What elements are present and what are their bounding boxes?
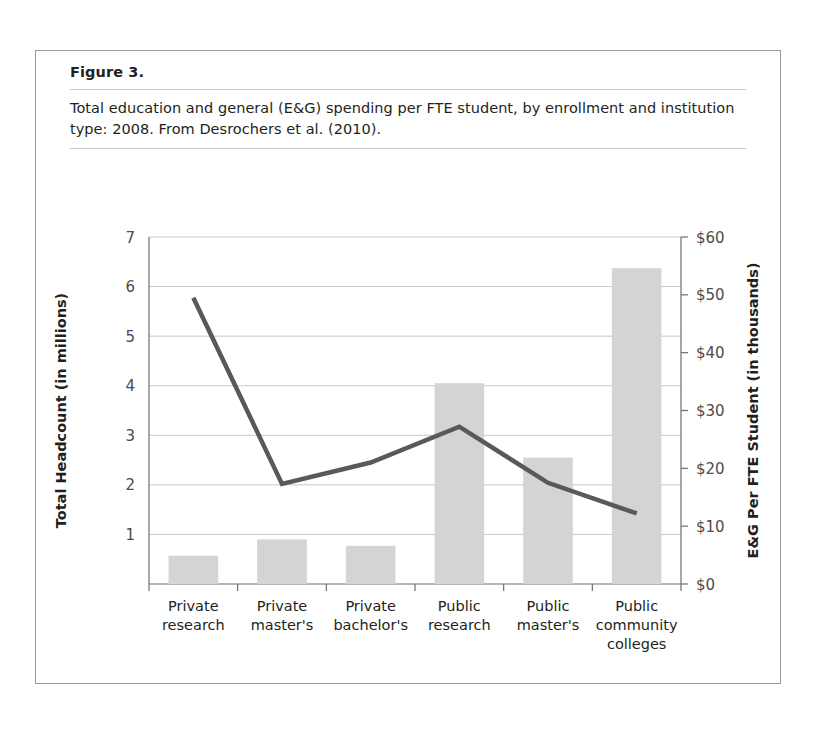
right-axis-title: E&G Per FTE Student (in thousands) — [745, 262, 761, 558]
category-label: Publicresearch — [428, 598, 491, 633]
left-tick-label: 6 — [125, 278, 135, 296]
figure-caption-block: Figure 3. Total education and general (E… — [70, 64, 746, 149]
gridlines-group — [149, 237, 681, 534]
category-label-line: master's — [251, 617, 314, 633]
left-tick-label: 7 — [125, 229, 135, 247]
category-label: Privatemaster's — [251, 598, 314, 633]
right-tick-label: $0 — [696, 576, 715, 594]
category-label-line: Private — [168, 598, 219, 614]
left-tick-label: 5 — [125, 328, 135, 346]
bar-series-total-headcount — [169, 268, 662, 584]
category-label-line: Public — [438, 598, 481, 614]
right-tick-label: $60 — [696, 229, 725, 247]
bar — [523, 458, 573, 584]
bar — [169, 556, 219, 584]
right-tick-label: $40 — [696, 344, 725, 362]
category-label: Privatebachelor's — [333, 598, 408, 633]
category-label-line: Public — [615, 598, 658, 614]
chart-svg: 1234567 $0$10$20$30$40$50$60 Privaterese… — [36, 155, 782, 685]
left-tick-label: 2 — [125, 476, 135, 494]
category-label-line: research — [428, 617, 491, 633]
category-label-line: Private — [257, 598, 308, 614]
left-tick-label: 4 — [125, 377, 135, 395]
right-tick-label: $50 — [696, 286, 725, 304]
right-tick-label: $10 — [696, 518, 725, 536]
category-label: Publiccommunitycolleges — [596, 598, 678, 652]
category-label-line: colleges — [607, 636, 667, 652]
category-label-line: Public — [527, 598, 570, 614]
bar — [346, 546, 396, 584]
bar — [257, 539, 307, 584]
figure-caption-text: Total education and general (E&G) spendi… — [70, 90, 746, 148]
category-label-line: bachelor's — [333, 617, 408, 633]
figure-number: Figure 3. — [70, 64, 746, 89]
bar — [612, 268, 662, 584]
category-label-line: community — [596, 617, 678, 633]
right-tick-label: $30 — [696, 402, 725, 420]
left-axis-title: Total Headcount (in millions) — [53, 293, 69, 528]
figure-card: Figure 3. Total education and general (E… — [35, 50, 781, 684]
caption-rule-bottom — [70, 148, 746, 149]
right-axis-ticks: $0$10$20$30$40$50$60 — [681, 229, 725, 594]
category-label: Publicmaster's — [517, 598, 580, 633]
bar — [435, 383, 485, 584]
category-label-line: research — [162, 617, 225, 633]
left-tick-label: 3 — [125, 427, 135, 445]
left-tick-label: 1 — [125, 526, 135, 544]
category-label-line: master's — [517, 617, 580, 633]
category-label: Privateresearch — [162, 598, 225, 633]
right-tick-label: $20 — [696, 460, 725, 478]
chart-plot-area: 1234567 $0$10$20$30$40$50$60 Privaterese… — [36, 155, 782, 685]
category-label-line: Private — [345, 598, 396, 614]
category-tick-marks — [149, 584, 681, 591]
category-labels-group: PrivateresearchPrivatemaster'sPrivatebac… — [162, 598, 678, 652]
left-axis-ticks: 1234567 — [125, 229, 135, 544]
